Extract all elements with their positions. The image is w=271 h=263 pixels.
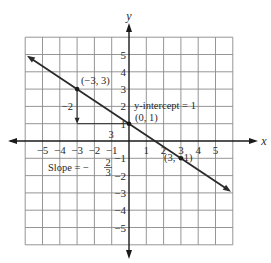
x-axis-arrow-left	[8, 138, 17, 144]
slope-denominator: 3	[105, 167, 110, 178]
slope-label: Slope = −	[48, 162, 89, 173]
rise-arrow-head	[75, 118, 80, 124]
y-tick-label: 5	[121, 49, 127, 61]
y-tick-label: 4	[121, 66, 127, 78]
y-axis-label: y	[125, 9, 132, 23]
coordinate-plane: xy −5−4−3−2−11234554321−1−2−3−4−5 −23 (−…	[0, 0, 271, 263]
data-point	[127, 121, 132, 126]
line-arrow-left	[27, 56, 35, 63]
x-tick-label: −4	[54, 144, 66, 156]
x-tick-label: −5	[37, 144, 49, 156]
data-point	[75, 87, 80, 92]
x-tick-label: −3	[71, 144, 83, 156]
point-label: (3, −1)	[164, 152, 193, 164]
y-tick-label: −2	[114, 170, 126, 182]
y-axis-arrow-down	[126, 250, 132, 259]
x-tick-label: −2	[89, 144, 101, 156]
rise-label: −2	[62, 101, 73, 112]
line-arrow-right	[223, 185, 231, 192]
y-tick-label: −1	[114, 152, 126, 164]
y-tick-label: −5	[114, 222, 126, 234]
x-axis-arrow-right	[249, 138, 258, 144]
y-intercept-label: y-intercept = 1	[134, 100, 196, 111]
point-label: (−3, 3)	[81, 75, 110, 87]
y-axis-arrow-up	[126, 23, 132, 32]
x-tick-label: 4	[195, 144, 201, 156]
slope-triangle: −23	[62, 89, 129, 140]
run-label: 3	[108, 129, 113, 140]
y-tick-label: 3	[121, 83, 127, 95]
y-tick-label: 2	[121, 100, 127, 112]
x-tick-label: 5	[213, 144, 219, 156]
y-tick-label: −3	[114, 187, 126, 199]
y-tick-label: −4	[114, 204, 126, 216]
x-tick-label: 1	[144, 144, 150, 156]
x-axis-label: x	[260, 134, 267, 148]
axes: xy	[8, 9, 267, 259]
point-label: (0, 1)	[135, 112, 158, 124]
